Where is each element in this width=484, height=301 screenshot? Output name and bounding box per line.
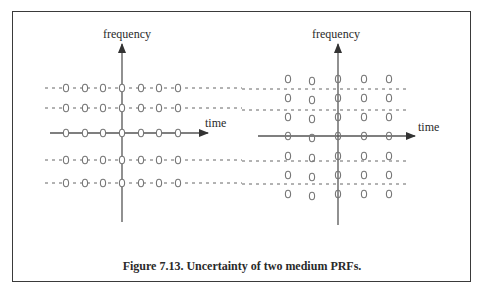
ambiguity-marker bbox=[100, 104, 105, 112]
ambiguity-marker bbox=[119, 104, 124, 112]
ambiguity-marker bbox=[63, 179, 68, 187]
ambiguity-marker bbox=[119, 129, 124, 137]
ambiguity-marker bbox=[386, 171, 391, 179]
ambiguity-marker bbox=[100, 156, 105, 164]
ambiguity-marker bbox=[119, 156, 124, 164]
right-frequency-label: frequency bbox=[312, 27, 360, 41]
left-diagram bbox=[45, 44, 242, 222]
ambiguity-marker bbox=[156, 156, 161, 164]
right-time-label: time bbox=[418, 120, 439, 134]
ambiguity-marker bbox=[309, 77, 314, 85]
ambiguity-marker bbox=[285, 113, 290, 121]
prf-uncertainty-diagrams: frequency time frequency time bbox=[0, 0, 484, 301]
ambiguity-marker bbox=[285, 75, 290, 83]
ambiguity-marker bbox=[138, 179, 143, 187]
ambiguity-marker bbox=[63, 156, 68, 164]
ambiguity-marker bbox=[309, 173, 314, 181]
ambiguity-marker bbox=[285, 171, 290, 179]
right-diagram bbox=[242, 44, 415, 225]
ambiguity-marker bbox=[138, 104, 143, 112]
ambiguity-marker bbox=[361, 75, 366, 83]
ambiguity-marker bbox=[156, 84, 161, 92]
ambiguity-marker bbox=[175, 129, 180, 137]
ambiguity-marker bbox=[285, 94, 290, 102]
ambiguity-marker bbox=[119, 179, 124, 187]
ambiguity-marker bbox=[82, 84, 87, 92]
ambiguity-marker bbox=[285, 152, 290, 160]
ambiguity-marker bbox=[361, 94, 366, 102]
ambiguity-marker bbox=[63, 104, 68, 112]
ambiguity-marker bbox=[63, 129, 68, 137]
ambiguity-marker bbox=[361, 171, 366, 179]
ambiguity-marker bbox=[138, 156, 143, 164]
ambiguity-marker bbox=[82, 104, 87, 112]
ambiguity-marker bbox=[175, 156, 180, 164]
ambiguity-marker bbox=[175, 84, 180, 92]
ambiguity-marker bbox=[361, 190, 366, 198]
ambiguity-marker bbox=[175, 179, 180, 187]
left-frequency-label: frequency bbox=[103, 27, 151, 41]
ambiguity-marker bbox=[138, 129, 143, 137]
left-time-label: time bbox=[205, 116, 226, 130]
figure-caption: Figure 7.13. Uncertainty of two medium P… bbox=[0, 259, 484, 274]
ambiguity-marker bbox=[82, 129, 87, 137]
ambiguity-marker bbox=[361, 152, 366, 160]
ambiguity-marker bbox=[82, 156, 87, 164]
ambiguity-marker bbox=[386, 190, 391, 198]
ambiguity-marker bbox=[386, 94, 391, 102]
ambiguity-marker bbox=[309, 115, 314, 123]
ambiguity-marker bbox=[119, 84, 124, 92]
ambiguity-marker bbox=[386, 152, 391, 160]
ambiguity-marker bbox=[156, 129, 161, 137]
ambiguity-marker bbox=[309, 134, 314, 142]
ambiguity-marker bbox=[100, 179, 105, 187]
ambiguity-marker bbox=[100, 84, 105, 92]
ambiguity-marker bbox=[138, 84, 143, 92]
ambiguity-marker bbox=[386, 113, 391, 121]
ambiguity-marker bbox=[175, 104, 180, 112]
ambiguity-marker bbox=[63, 84, 68, 92]
ambiguity-marker bbox=[386, 75, 391, 83]
ambiguity-marker bbox=[156, 179, 161, 187]
ambiguity-marker bbox=[309, 96, 314, 104]
ambiguity-marker bbox=[100, 129, 105, 137]
ambiguity-marker bbox=[285, 190, 290, 198]
ambiguity-marker bbox=[82, 179, 87, 187]
ambiguity-marker bbox=[156, 104, 161, 112]
ambiguity-marker bbox=[309, 192, 314, 200]
ambiguity-marker bbox=[361, 113, 366, 121]
